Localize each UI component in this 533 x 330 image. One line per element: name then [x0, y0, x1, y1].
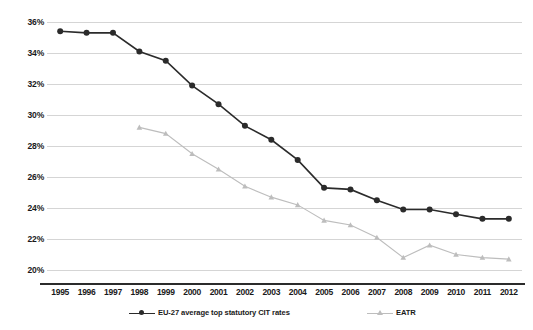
series-eatr [137, 125, 512, 262]
y-axis-tick-label: 22% [4, 235, 44, 244]
data-point-marker [347, 186, 353, 192]
series-line [139, 127, 508, 259]
data-point-marker [57, 28, 63, 34]
data-point-marker [242, 123, 248, 129]
data-point-marker [453, 211, 459, 217]
data-point-marker [136, 48, 142, 54]
data-point-marker [479, 216, 485, 222]
series-layer [47, 22, 522, 270]
chart-legend: EU-27 average top statutory CIT rates EA… [47, 306, 522, 322]
data-point-marker [242, 184, 248, 189]
legend-label-cit: EU-27 average top statutory CIT rates [158, 308, 290, 318]
x-axis-tick-label: 2012 [492, 287, 526, 298]
data-point-marker [216, 101, 222, 107]
gridline [47, 270, 522, 271]
data-point-marker [374, 235, 380, 240]
y-axis-tick-label: 34% [4, 49, 44, 58]
y-axis-tick-label: 26% [4, 173, 44, 182]
y-axis-tick-label: 24% [4, 204, 44, 213]
y-axis-tick-label: 28% [4, 142, 44, 151]
series-line [60, 31, 509, 219]
data-point-marker [321, 185, 327, 191]
legend-label-eatr: EATR [396, 308, 416, 318]
x-axis-line [40, 283, 525, 285]
data-point-marker [84, 30, 90, 36]
legend-item-cit[interactable]: EU-27 average top statutory CIT rates [129, 306, 290, 320]
data-point-marker [506, 216, 512, 222]
data-point-marker [137, 125, 143, 130]
plot-area [47, 22, 522, 270]
data-point-marker [216, 166, 222, 171]
data-point-marker [400, 207, 406, 213]
data-point-marker [427, 242, 433, 247]
data-point-marker [268, 137, 274, 143]
data-point-marker [374, 197, 380, 203]
data-point-marker [189, 83, 195, 89]
legend-marker-cit-icon [129, 308, 155, 318]
line-chart: 36%34%32%30%28%26%24%22%20% 199519961997… [0, 0, 533, 330]
legend-item-eatr[interactable]: EATR [367, 306, 416, 320]
y-axis-tick-label: 30% [4, 111, 44, 120]
y-axis-tick-label: 32% [4, 80, 44, 89]
data-point-marker [110, 30, 116, 36]
data-point-marker [295, 157, 301, 163]
data-point-marker [427, 207, 433, 213]
y-axis-tick-label: 36% [4, 18, 44, 27]
y-axis-tick-label: 20% [4, 266, 44, 275]
x-axis: 1995199619971998199920002001200220032004… [47, 287, 522, 301]
data-point-marker [163, 58, 169, 64]
data-point-marker [321, 218, 327, 223]
y-axis: 36%34%32%30%28%26%24%22%20% [0, 0, 44, 330]
series-cit [57, 28, 512, 222]
legend-marker-eatr-icon [367, 308, 393, 318]
